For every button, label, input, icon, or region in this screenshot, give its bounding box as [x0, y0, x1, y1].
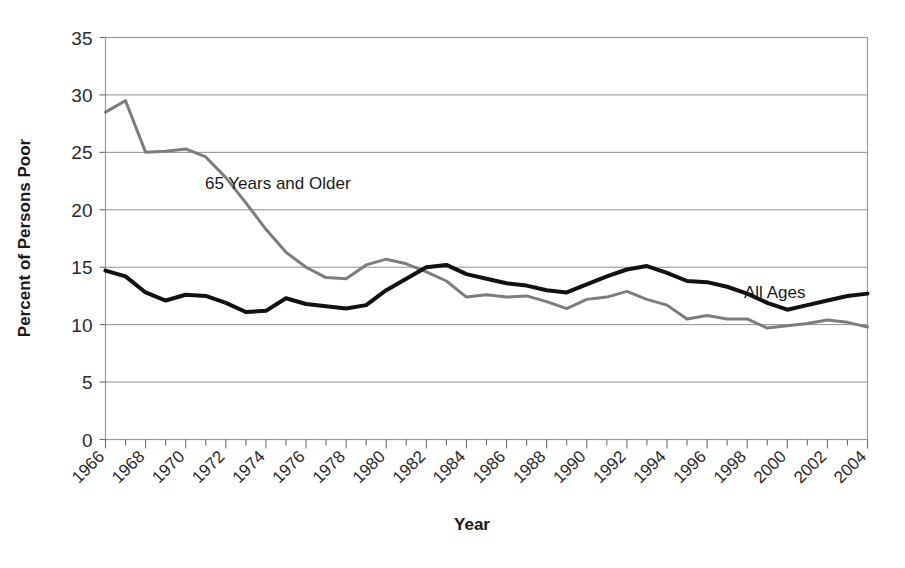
- x-tick-label-1988: 1988: [509, 447, 549, 487]
- x-axis-tick-labels: 1966196819701972197419761978198019821984…: [68, 447, 870, 487]
- x-tick-label-1992: 1992: [590, 447, 630, 487]
- x-tick-label-1974: 1974: [229, 447, 269, 487]
- x-tick-label-1982: 1982: [389, 447, 429, 487]
- x-tick-label-1984: 1984: [429, 447, 469, 487]
- y-axis-ticks: [100, 38, 106, 440]
- y-tick-label-10: 10: [71, 315, 92, 336]
- x-tick-label-2000: 2000: [750, 447, 790, 487]
- x-tick-label-1968: 1968: [108, 447, 148, 487]
- y-tick-label-25: 25: [71, 142, 92, 163]
- y-tick-label-0: 0: [82, 430, 93, 451]
- series-annotation-all-ages: All Ages: [744, 283, 805, 302]
- x-axis-title: Year: [454, 515, 490, 534]
- x-tick-label-1978: 1978: [309, 447, 349, 487]
- plot-area-frame: [106, 38, 868, 440]
- x-tick-label-2004: 2004: [830, 447, 870, 487]
- x-axis-ticks: [106, 440, 868, 449]
- x-tick-label-1972: 1972: [188, 447, 228, 487]
- x-tick-label-1998: 1998: [710, 447, 750, 487]
- y-tick-label-35: 35: [71, 28, 92, 49]
- x-tick-label-1976: 1976: [269, 447, 309, 487]
- x-tick-label-1990: 1990: [549, 447, 589, 487]
- x-tick-label-1986: 1986: [469, 447, 509, 487]
- plot-gridlines: [106, 95, 868, 382]
- x-tick-label-1996: 1996: [670, 447, 710, 487]
- y-tick-label-5: 5: [82, 372, 93, 393]
- y-tick-label-15: 15: [71, 257, 92, 278]
- y-tick-label-20: 20: [71, 200, 92, 221]
- x-tick-label-1966: 1966: [68, 447, 108, 487]
- series-annotation-65-and-older: 65 Years and Older: [205, 174, 351, 193]
- y-axis-tick-labels: 05101520253035: [71, 28, 92, 451]
- x-tick-label-2002: 2002: [790, 447, 830, 487]
- poverty-rate-line-chart: 05101520253035 1966196819701972197419761…: [0, 0, 905, 568]
- x-tick-label-1994: 1994: [630, 447, 670, 487]
- chart-canvas: 05101520253035 1966196819701972197419761…: [0, 0, 905, 568]
- x-tick-label-1980: 1980: [349, 447, 389, 487]
- x-tick-label-1970: 1970: [148, 447, 188, 487]
- y-tick-label-30: 30: [71, 85, 92, 106]
- y-axis-title: Percent of Persons Poor: [15, 138, 34, 337]
